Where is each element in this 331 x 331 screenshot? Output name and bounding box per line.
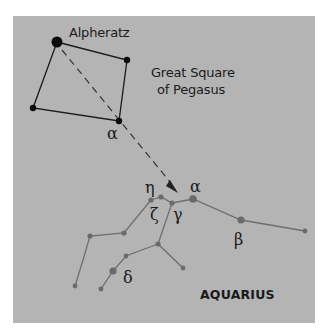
label-delta: δ [123, 268, 133, 287]
star-chart [0, 0, 331, 331]
star-alpheratz [52, 37, 63, 48]
star-zeta [148, 197, 153, 202]
label-eta: η [145, 178, 155, 197]
pegasus-square [33, 42, 127, 121]
star-beta [237, 216, 244, 223]
star-pegasus-sw [30, 105, 36, 111]
label-beta: β [234, 230, 243, 249]
label-alpheratz: Alpheratz [69, 25, 129, 40]
star-aqr-alpha [189, 195, 197, 203]
aquarius-lines [75, 197, 305, 289]
aquarius-stars [73, 194, 308, 291]
star-aqr-f [155, 241, 160, 246]
label-great-square-line1: Great Square [151, 65, 235, 80]
arrowhead-icon [166, 180, 178, 193]
star-aqr-h [124, 254, 129, 259]
label-zeta: ζ [150, 205, 159, 224]
star-aqr-c [121, 230, 126, 235]
label-great-square-line2: of Pegasus [157, 82, 225, 97]
label-aquarius: AQUARIUS [200, 287, 275, 302]
star-aqr-west [303, 229, 308, 234]
star-aqr-d [87, 233, 92, 238]
star-eta [158, 194, 163, 199]
label-gamma: γ [173, 205, 183, 224]
star-delta [109, 267, 116, 274]
pegasus-stars [30, 37, 130, 125]
label-aqr-alpha: α [190, 177, 201, 196]
star-pegasus-ne [124, 57, 130, 63]
star-aqr-e [73, 284, 78, 289]
star-aqr-g [181, 266, 186, 271]
star-aqr-i [99, 287, 104, 292]
label-pegasus-alpha: α [107, 124, 118, 143]
